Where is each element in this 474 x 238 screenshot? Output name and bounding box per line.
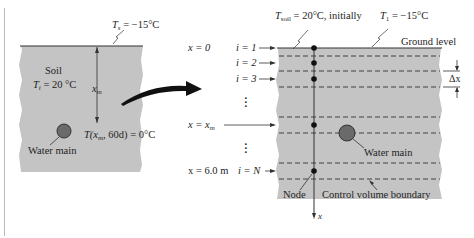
node-i2-label: i = 2	[236, 58, 257, 69]
ellipsis-lower: ···	[244, 142, 248, 154]
right-water-main-pipe	[339, 125, 355, 141]
freeze-condition-label: T(xm, 60d) = 0°C	[84, 130, 155, 142]
soil-label: Soil	[45, 66, 62, 77]
node-iN-label: i = N	[238, 166, 260, 177]
surface-temp-label: Ts = −15°C	[112, 20, 159, 32]
x-axis-arrow-icon	[312, 213, 316, 219]
delta-x-arrow-down-icon	[455, 66, 459, 71]
depth-xm-label: xm	[92, 84, 102, 96]
left-water-main-pipe	[57, 124, 71, 138]
tsoil-label: Tsoil = 20°C, initially	[275, 11, 362, 23]
ellipsis-upper: ···	[244, 96, 248, 108]
left-water-main-label: Water main	[28, 146, 76, 157]
node-2	[311, 60, 317, 66]
node-i1-label: i = 1	[236, 43, 257, 54]
initial-temp-label: Ti = 20 °C	[33, 80, 76, 92]
delta-x-arrow-up-icon	[455, 87, 459, 92]
tsoil-leader-line	[293, 30, 308, 49]
x-zero-label: x = 0	[188, 43, 210, 54]
ts-leader-line	[113, 30, 124, 44]
x-xm-label: x = xm	[188, 120, 215, 132]
node-N	[311, 168, 317, 174]
delta-x-label: Δx	[449, 74, 460, 84]
node-1	[311, 45, 317, 51]
right-water-main-label: Water main	[364, 148, 412, 159]
node-m	[311, 122, 317, 128]
node-i3-label: i = 3	[236, 74, 257, 85]
t1-leader-line	[372, 29, 388, 47]
node-3	[311, 76, 317, 82]
ground-level-label: Ground level	[401, 37, 456, 48]
x-axis-label: x	[318, 212, 322, 221]
node-label: Node	[283, 190, 306, 201]
t1-label: T1 = −15°C	[380, 11, 428, 23]
control-volume-label: Control volume boundary	[322, 190, 431, 201]
x-end-label: x = 6.0 m	[188, 166, 228, 177]
